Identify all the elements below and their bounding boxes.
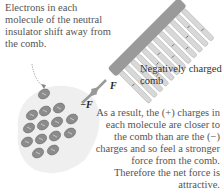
force-on-comb-arrow	[93, 80, 106, 93]
comb-label: Negatively charged comb	[140, 63, 224, 87]
insulator-note: Electrons in each molecule of the neutra…	[5, 2, 117, 50]
force-label-f: F⃗	[110, 80, 124, 91]
leader-dotted-arrow	[32, 64, 44, 87]
result-note: As a result, the (+) charges in each mol…	[92, 107, 220, 191]
